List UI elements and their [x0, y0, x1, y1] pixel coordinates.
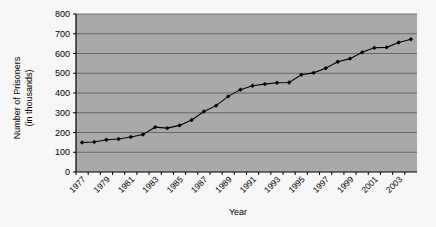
y-tick-label: 500 — [55, 68, 70, 78]
y-tick-label: 800 — [55, 9, 70, 19]
y-tick-label: 600 — [55, 49, 70, 59]
y-tick-label: 100 — [55, 147, 70, 157]
prisoner-population-chart: 0100200300400500600700800 19771979198119… — [0, 0, 436, 227]
y-tick-label: 700 — [55, 29, 70, 39]
y-axis-tick-labels: 0100200300400500600700800 — [55, 9, 70, 177]
x-axis-title: Year — [229, 207, 247, 217]
y-axis-title-line2: (in thousands) — [24, 69, 34, 126]
y-tick-label: 200 — [55, 128, 70, 138]
y-tick-label: 0 — [65, 167, 70, 177]
y-tick-label: 300 — [55, 108, 70, 118]
y-tick-label: 400 — [55, 88, 70, 98]
y-axis-title-line1: Number of Prisoners — [12, 56, 22, 139]
chart-canvas: 0100200300400500600700800 19771979198119… — [0, 0, 436, 227]
